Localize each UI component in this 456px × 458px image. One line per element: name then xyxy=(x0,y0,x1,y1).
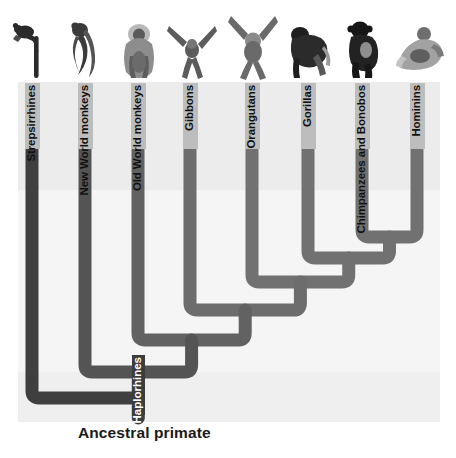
tip-label-old-world-monkeys[interactable]: Old World monkeys xyxy=(131,83,146,149)
tip-label-text: Hominins xyxy=(411,85,423,137)
lemur-silhouette xyxy=(8,18,56,80)
tip-label-orangutans[interactable]: Orangutans xyxy=(245,83,260,149)
root-label-ancestral-primate: Ancestral primate xyxy=(78,424,211,442)
tip-label-text: New World monkeys xyxy=(79,85,91,196)
tip-label-text: Strepsirrhines xyxy=(26,85,38,162)
tip-label-text: Gibbons xyxy=(184,85,196,131)
tip-label-hominins[interactable]: Hominins xyxy=(410,83,425,149)
tip-label-text: Orangutans xyxy=(246,85,258,149)
tip-label-chimpanzees-and-bonobos[interactable]: Chimpanzees and Bonobos xyxy=(355,83,370,149)
figure-canvas: Strepsirrhines New World monkeys Old Wor… xyxy=(0,0,456,458)
node-label-haplorhines[interactable]: Haplorhines xyxy=(132,355,145,415)
tip-label-gorillas[interactable]: Gorillas xyxy=(301,83,316,149)
tip-label-text: Old World monkeys xyxy=(132,85,144,191)
chimpanzee-silhouette xyxy=(340,18,386,80)
tip-label-strepsirrhines[interactable]: Strepsirrhines xyxy=(25,83,40,149)
node-label-text: Haplorhines xyxy=(133,357,145,423)
tip-label-new-world-monkeys[interactable]: New World monkeys xyxy=(78,83,93,149)
gorilla-silhouette xyxy=(284,22,334,80)
tip-label-text: Chimpanzees and Bonobos xyxy=(356,85,368,234)
tip-label-gibbons[interactable]: Gibbons xyxy=(183,83,198,149)
macaque-silhouette xyxy=(116,22,162,80)
gibbon-silhouette xyxy=(167,20,217,80)
spider-monkey-silhouette xyxy=(63,18,107,80)
hominin-silhouette xyxy=(394,22,446,78)
branch-node-panhomo xyxy=(362,150,417,237)
tip-label-text: Gorillas xyxy=(302,85,314,127)
orangutan-silhouette xyxy=(228,14,278,80)
